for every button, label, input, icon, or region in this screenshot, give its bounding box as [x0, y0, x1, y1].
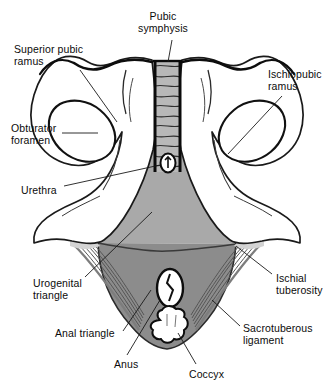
label-anal-triangle: Anal triangle — [55, 327, 115, 339]
label-anus: Anus — [114, 358, 138, 370]
label-obturator-foramen: Obturator foramen — [11, 122, 56, 147]
label-sacrotuberous-ligament: Sacrotuberous ligament — [243, 322, 313, 347]
leader-pubic-symphysis — [168, 40, 172, 62]
leader-sacrotuberous-ligament — [212, 300, 240, 326]
label-pubic-symphysis: Pubic symphysis — [123, 10, 203, 35]
anus-structure — [157, 269, 183, 307]
label-urogenital-triangle: Urogenital triangle — [33, 277, 82, 302]
label-ischial-tuberosity: Ischial tuberosity — [276, 272, 323, 297]
label-ischiopubic-ramus: Ischiopubic ramus — [268, 68, 322, 93]
label-urethra: Urethra — [21, 184, 57, 196]
figure-canvas: Pubic symphysis Superior pubic ramus Isc… — [0, 0, 332, 383]
label-superior-pubic-ramus: Superior pubic ramus — [14, 43, 83, 68]
label-coccyx: Coccyx — [189, 368, 224, 380]
urethra-structure — [161, 154, 176, 173]
